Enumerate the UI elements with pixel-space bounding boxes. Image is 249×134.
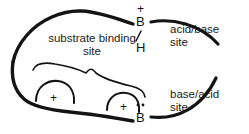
atom-label-h: H — [136, 40, 145, 55]
atom-label-b-bottom: B — [136, 110, 145, 125]
binding-pocket-charge-left: + — [50, 91, 57, 105]
lone-pair-dot-2 — [142, 104, 145, 107]
substrate-binding-site-label: substrate binding site — [36, 32, 148, 58]
acid-base-site-label: acid/base site — [170, 23, 219, 49]
binding-pocket-charge-right: + — [120, 100, 127, 114]
figure-canvas: substrate binding site acid/base site ba… — [0, 0, 249, 134]
atom-label-b-top: B — [136, 14, 145, 29]
base-acid-site-label: base/acid site — [170, 88, 219, 114]
